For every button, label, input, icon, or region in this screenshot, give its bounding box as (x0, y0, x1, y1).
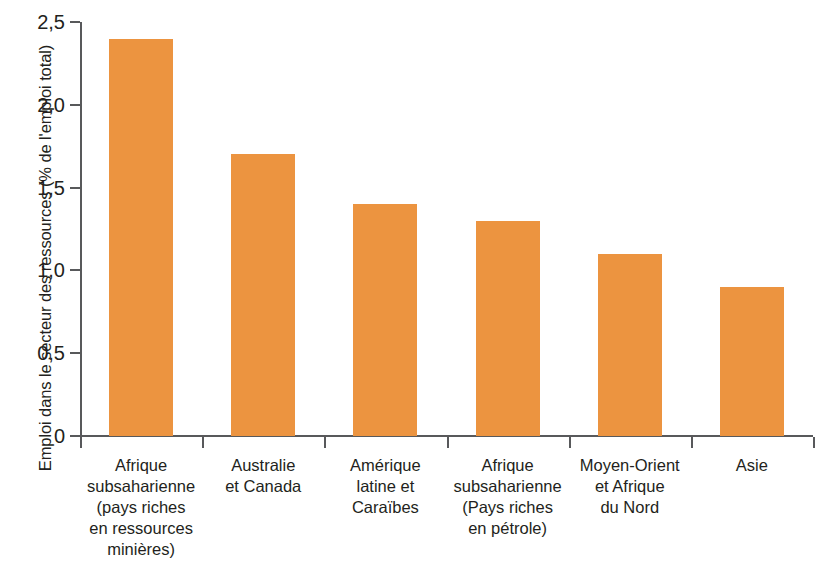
bar (476, 221, 540, 436)
x-category-label-line: (pays riches (80, 497, 202, 518)
x-category-label: Moyen-Orientet Afriquedu Nord (569, 455, 691, 518)
y-tick-label: 0,5 (5, 343, 65, 363)
y-tick-label: 1,0 (5, 260, 65, 280)
x-category-label-line: Afrique (447, 455, 569, 476)
x-category-label-line: et Afrique (569, 476, 691, 497)
y-tick-mark (70, 187, 80, 189)
y-tick-label: 0 (5, 426, 65, 446)
x-category-label: Afriquesubsaharienne(Pays richesen pétro… (447, 455, 569, 539)
x-category-label-line: du Nord (569, 497, 691, 518)
x-category-label: Afriquesubsaharienne(pays richesen resso… (80, 455, 202, 560)
bar (598, 254, 662, 436)
bar (109, 39, 173, 436)
x-category-label: Australieet Canada (202, 455, 324, 497)
y-tick-label: 1,5 (5, 178, 65, 198)
x-category-label: Asie (691, 455, 813, 476)
x-category-label-line: Caraïbes (324, 497, 446, 518)
x-category-label-line: subsaharienne (80, 476, 202, 497)
x-category-label-line: latine et (324, 476, 446, 497)
y-axis-line (80, 22, 82, 437)
y-tick-mark (70, 269, 80, 271)
x-tick-mark (691, 437, 693, 448)
x-tick-mark (80, 437, 82, 448)
x-category-label-line: Asie (691, 455, 813, 476)
x-category-label-line: minières) (80, 539, 202, 560)
bar (231, 154, 295, 436)
y-tick-mark (70, 104, 80, 106)
x-category-label-line: Amérique (324, 455, 446, 476)
y-tick-mark (70, 352, 80, 354)
x-category-label-line: Australie (202, 455, 324, 476)
y-tick-label: 2,5 (5, 12, 65, 32)
x-tick-mark (447, 437, 449, 448)
bar (353, 204, 417, 436)
x-category-label-line: subsaharienne (447, 476, 569, 497)
x-category-label: Amériquelatine etCaraïbes (324, 455, 446, 518)
x-category-label-line: et Canada (202, 476, 324, 497)
x-category-label-line: Afrique (80, 455, 202, 476)
x-category-label-line: en pétrole) (447, 518, 569, 539)
x-tick-mark (202, 437, 204, 448)
bar (720, 287, 784, 436)
x-tick-mark (569, 437, 571, 448)
x-category-label-line: en ressources (80, 518, 202, 539)
y-tick-mark (70, 435, 80, 437)
y-tick-mark (70, 21, 80, 23)
bar-chart: Emploi dans le secteur des ressources (%… (0, 0, 815, 572)
y-tick-label: 2,0 (5, 95, 65, 115)
x-category-label-line: (Pays riches (447, 497, 569, 518)
x-tick-mark (324, 437, 326, 448)
x-category-label-line: Moyen-Orient (569, 455, 691, 476)
